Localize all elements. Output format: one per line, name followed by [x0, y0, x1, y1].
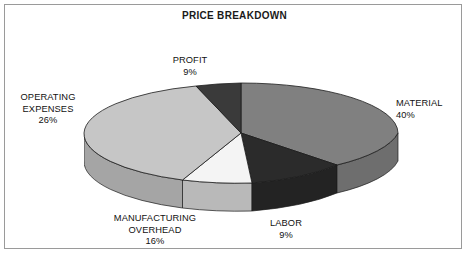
slice-label-operating-expenses-name-line1: OPERATING: [21, 92, 76, 102]
slice-label-operating-expenses-pct: 26%: [21, 115, 76, 127]
slice-label-labor-name: LABOR: [270, 218, 302, 228]
slice-label-labor-pct: 9%: [270, 230, 302, 242]
slice-label-manufacturing-overhead-pct: 16%: [114, 236, 196, 248]
slice-label-profit-name: PROFIT: [173, 55, 208, 65]
slice-label-manufacturing-overhead-name-line1: MANUFACTURING: [114, 213, 196, 223]
slice-label-manufacturing-overhead-name-line2: OVERHEAD: [114, 225, 196, 237]
pie-chart-stage: MATERIAL 40% LABOR 9% MANUFACTURING OVER…: [0, 0, 469, 274]
pie-chart-svg: [0, 0, 469, 274]
slice-label-material-pct: 40%: [396, 110, 443, 122]
slice-label-operating-expenses-name-line2: EXPENSES: [21, 104, 76, 116]
slice-label-profit: PROFIT 9%: [173, 55, 208, 78]
slice-label-material: MATERIAL 40%: [396, 98, 443, 121]
slice-label-operating-expenses: OPERATING EXPENSES 26%: [21, 92, 76, 127]
slice-label-labor: LABOR 9%: [270, 218, 302, 241]
price-breakdown-chart-figure: PRICE BREAKDOWN: [0, 0, 469, 274]
slice-label-profit-pct: 9%: [173, 67, 208, 79]
slice-label-manufacturing-overhead: MANUFACTURING OVERHEAD 16%: [114, 213, 196, 248]
slice-label-material-name: MATERIAL: [396, 98, 443, 108]
